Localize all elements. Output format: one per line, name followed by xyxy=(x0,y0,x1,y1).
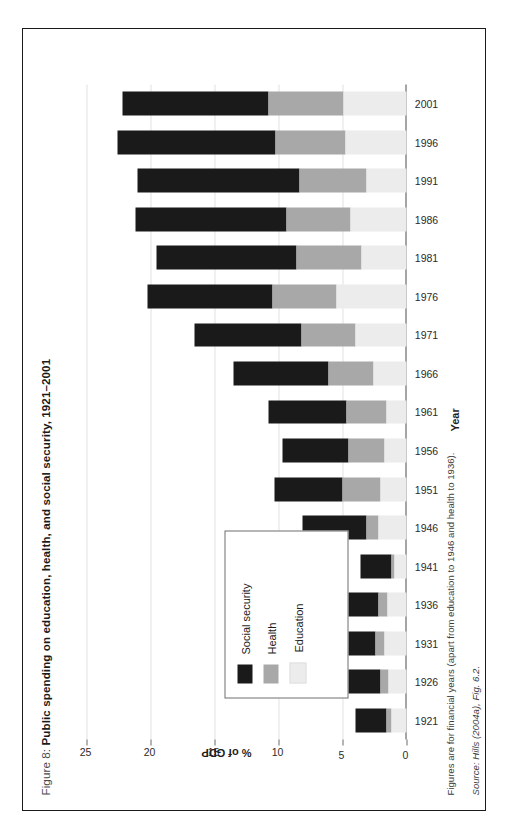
bar-segment xyxy=(268,400,346,424)
bar-segment xyxy=(233,361,328,385)
value-axis-tick-label: 20 xyxy=(143,745,155,757)
bar-segment xyxy=(122,91,268,115)
legend-item-label: Social security xyxy=(239,583,251,654)
value-axis-tick-mark xyxy=(214,739,215,745)
bar-stack xyxy=(233,361,406,385)
bar-segment xyxy=(388,669,406,693)
legend-swatch-icon xyxy=(289,662,306,683)
bar-segment xyxy=(366,515,378,539)
category-axis-label: 1926 xyxy=(414,675,437,687)
bar-segment xyxy=(386,400,406,424)
legend-item: Education xyxy=(289,531,306,683)
bar-segment xyxy=(384,631,406,655)
bar-segment xyxy=(350,207,406,231)
gridline xyxy=(86,84,87,739)
rotated-figure-stage: Figure 8: Public spending on education, … xyxy=(24,30,484,809)
bar-stack xyxy=(135,207,406,231)
value-axis-tick-mark xyxy=(150,739,151,745)
category-axis-label: 1921 xyxy=(414,714,437,726)
value-axis-tick-mark xyxy=(278,739,279,745)
bar-segment xyxy=(275,130,344,154)
bar-segment xyxy=(375,631,384,655)
bar-stack xyxy=(360,554,406,578)
figure-frame: Figure 8: Public spending on education, … xyxy=(22,28,486,811)
chart-legend: Social securityHealthEducation xyxy=(224,530,348,698)
value-axis-tick-mark xyxy=(86,739,87,745)
bar-segment xyxy=(135,207,286,231)
bar-stack xyxy=(355,708,406,732)
value-axis-tick-mark xyxy=(342,739,343,745)
bar-segment xyxy=(387,592,406,616)
bar-stack xyxy=(117,130,406,154)
bar-segment xyxy=(394,554,406,578)
category-axis-label: 1936 xyxy=(414,598,437,610)
bar-segment xyxy=(345,130,406,154)
bar-segment xyxy=(378,592,387,616)
bar-stack xyxy=(147,284,406,308)
category-axis-label: 1981 xyxy=(414,251,437,263)
category-axis-label: 1931 xyxy=(414,637,437,649)
bar-segment xyxy=(346,400,386,424)
category-axis-label: 1971 xyxy=(414,328,437,340)
bar-segment xyxy=(301,323,355,347)
bar-segment xyxy=(373,361,406,385)
bar-segment xyxy=(360,554,391,578)
bar-segment xyxy=(147,284,271,308)
legend-item: Health xyxy=(263,531,278,683)
bar-stack xyxy=(282,438,406,462)
bar-stack xyxy=(194,323,406,347)
bar-segment xyxy=(336,284,406,308)
bar-segment xyxy=(343,91,406,115)
bar-segment xyxy=(391,708,406,732)
bar-stack xyxy=(156,245,406,269)
bar-segment xyxy=(137,168,298,192)
value-axis-tick-label: 5 xyxy=(338,748,344,760)
bar-segment xyxy=(391,554,395,578)
figure-title-text: Public spending on education, health, an… xyxy=(38,358,51,745)
category-axis-label: 1941 xyxy=(414,560,437,572)
category-axis-label: 1956 xyxy=(414,444,437,456)
bar-segment xyxy=(328,361,373,385)
bar-segment xyxy=(194,323,302,347)
value-axis-tick-label: 10 xyxy=(271,745,283,757)
bar-segment xyxy=(348,438,384,462)
bar-stack xyxy=(137,168,406,192)
legend-item-label: Health xyxy=(265,622,277,654)
bar-segment xyxy=(268,91,344,115)
bar-stack xyxy=(122,91,406,115)
bar-segment xyxy=(156,245,296,269)
bar-stack xyxy=(268,400,406,424)
category-axis-label: 1991 xyxy=(414,174,437,186)
figure-number: Figure 8: xyxy=(38,748,51,795)
bar-segment xyxy=(296,245,361,269)
bar-stack xyxy=(274,477,406,501)
bar-segment xyxy=(286,207,350,231)
category-axis-label: 1966 xyxy=(414,367,437,379)
bar-segment xyxy=(355,708,386,732)
value-axis-title: % of GDP xyxy=(201,747,251,759)
bar-segment xyxy=(274,477,342,501)
category-axis-label: 1996 xyxy=(414,136,437,148)
bar-segment xyxy=(355,323,406,347)
category-axis-label: 1961 xyxy=(414,406,437,418)
figure-source: Source: Hills (2004a), Fig. 6.2. xyxy=(469,95,480,795)
value-axis-tick-mark xyxy=(406,739,407,745)
bar-segment xyxy=(386,708,391,732)
category-axis-label: 1986 xyxy=(414,213,437,225)
bar-segment xyxy=(272,284,336,308)
value-axis-tick-label: 25 xyxy=(79,745,91,757)
legend-swatch-icon xyxy=(263,664,278,683)
bar-segment xyxy=(380,477,406,501)
category-axis-label: 2001 xyxy=(414,97,437,109)
figure-notes: Figures are for financial years (apart f… xyxy=(444,95,494,795)
bar-segment xyxy=(384,438,406,462)
bar-segment xyxy=(282,438,349,462)
bar-segment xyxy=(299,168,367,192)
legend-item-label: Education xyxy=(292,603,304,652)
bar-segment xyxy=(361,245,406,269)
category-axis-label: 1951 xyxy=(414,483,437,495)
figure-footnote: Figures are for financial years (apart f… xyxy=(444,95,455,795)
figure-title: Figure 8: Public spending on education, … xyxy=(38,358,51,795)
legend-swatch-icon xyxy=(237,664,252,683)
bar-segment xyxy=(342,477,380,501)
